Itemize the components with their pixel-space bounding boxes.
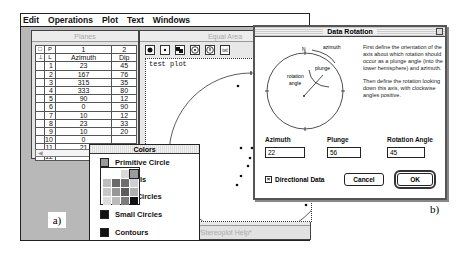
dip-cell[interactable] [112, 136, 137, 144]
azimuth-label: Azimuth [265, 136, 291, 143]
row-spacer [36, 119, 45, 127]
row-spacer [36, 95, 45, 103]
color-cell[interactable] [130, 197, 138, 205]
dip-cell[interactable]: 20 [112, 127, 137, 135]
azimuth-cell[interactable]: 23 [55, 62, 111, 70]
dip-cell[interactable]: 76 [112, 70, 137, 78]
color-row-contours[interactable]: Contours [100, 228, 148, 237]
table-row[interactable]: 91020 [36, 127, 137, 135]
small-dot-icon[interactable] [160, 45, 170, 55]
table-row[interactable]: 71012 [36, 111, 137, 119]
color-cell[interactable] [130, 188, 138, 196]
filled-dot-icon[interactable] [145, 45, 155, 55]
menu-edit[interactable]: Edit [23, 14, 39, 26]
row-index[interactable]: 3 [45, 78, 56, 86]
sort-icon[interactable]: ⊥ [36, 54, 45, 62]
squares-icon[interactable] [175, 45, 185, 55]
dialog-title-bar[interactable]: Data Rotation [255, 27, 445, 37]
row-spacer [36, 111, 45, 119]
azimuth-input[interactable]: 22 [265, 147, 305, 158]
checkbox-icon[interactable]: × [265, 176, 272, 183]
color-cell[interactable] [112, 188, 120, 196]
color-cell[interactable] [103, 170, 111, 178]
dip-cell[interactable]: 35 [112, 78, 137, 86]
row-spacer [36, 78, 45, 86]
row-index[interactable]: 1 [45, 62, 56, 70]
azimuth-cell[interactable]: 167 [55, 70, 111, 78]
color-cell[interactable] [121, 188, 129, 196]
column-number-2[interactable]: 2 [112, 46, 137, 54]
row-index[interactable]: 9 [45, 127, 56, 135]
menu-text[interactable]: Text [127, 14, 144, 26]
column-header-azimuth[interactable]: Azimuth [55, 54, 111, 62]
color-cell[interactable] [121, 197, 129, 205]
target-info-icon[interactable] [205, 45, 215, 55]
menu-operations[interactable]: Operations [48, 14, 93, 26]
color-cell[interactable] [112, 197, 120, 205]
dip-cell[interactable]: 45 [112, 62, 137, 70]
row-index[interactable]: 5 [45, 95, 56, 103]
table-row[interactable]: 59012 [36, 95, 137, 103]
colors-title[interactable]: Colors [90, 145, 199, 154]
color-cell[interactable] [121, 170, 129, 178]
color-row-small-circles[interactable]: Small Circles [100, 210, 162, 219]
menu-plot[interactable]: Plot [102, 14, 118, 26]
directional-data-checkbox[interactable]: × Directional Data [265, 176, 325, 183]
azimuth-cell[interactable]: 90 [55, 95, 111, 103]
table-row[interactable]: 433380 [36, 86, 137, 94]
color-cell[interactable] [130, 179, 138, 187]
table-row[interactable]: 100 [36, 136, 137, 144]
planes-title[interactable]: Planes [32, 31, 138, 42]
cancel-button[interactable]: Cancel [344, 173, 384, 186]
color-picker-popup[interactable] [100, 167, 140, 205]
row-index[interactable]: 6 [45, 103, 56, 111]
color-cell[interactable] [112, 170, 120, 178]
color-cell[interactable] [112, 179, 120, 187]
row-index[interactable]: 2 [45, 70, 56, 78]
azimuth-cell[interactable]: 315 [55, 78, 111, 86]
row-index[interactable]: 7 [45, 111, 56, 119]
column-number-1[interactable]: 1 [55, 46, 111, 54]
row-index[interactable]: 10 [45, 136, 56, 144]
table-row[interactable]: 331535 [36, 78, 137, 86]
row-spacer [36, 103, 45, 111]
color-cell[interactable] [103, 179, 111, 187]
azimuth-cell[interactable]: 10 [55, 111, 111, 119]
dip-cell[interactable]: 90 [112, 103, 137, 111]
zoom-box-icon[interactable] [436, 28, 443, 35]
color-cell[interactable] [121, 179, 129, 187]
text-tool-icon[interactable]: txt [220, 45, 230, 55]
table-row[interactable]: 216776 [36, 70, 137, 78]
color-swatch[interactable] [100, 228, 109, 237]
dip-cell[interactable]: 12 [112, 95, 137, 103]
azimuth-cell[interactable]: 10 [55, 127, 111, 135]
azimuth-cell[interactable]: 0 [55, 103, 111, 111]
rotation-angle-input[interactable]: 45 [387, 147, 425, 158]
dip-cell[interactable]: 80 [112, 86, 137, 94]
colors-palette: Colors Primitive Circle Symbols Great Ci… [89, 144, 200, 241]
ok-button[interactable]: OK [397, 173, 433, 186]
dip-cell[interactable]: 33 [112, 119, 137, 127]
azimuth-cell[interactable]: 0 [55, 136, 111, 144]
color-cell[interactable] [103, 188, 111, 196]
azimuth-cell[interactable]: 333 [55, 86, 111, 94]
color-cell[interactable] [103, 197, 111, 205]
column-header-dip[interactable]: Dip [112, 54, 137, 62]
doc-icon[interactable]: □ [36, 46, 45, 54]
color-swatch[interactable] [100, 158, 109, 167]
azimuth-cell[interactable]: 23 [55, 119, 111, 127]
color-row-primitive-circle[interactable]: Primitive Circle [100, 158, 170, 167]
table-row[interactable]: 82333 [36, 119, 137, 127]
row-index[interactable]: 8 [45, 119, 56, 127]
row-index[interactable]: 4 [45, 86, 56, 94]
svg-text:angle: angle [289, 80, 301, 86]
color-label: Contours [115, 228, 148, 237]
plunge-input[interactable]: 56 [327, 147, 361, 158]
table-row[interactable]: 12345 [36, 62, 137, 70]
menu-windows[interactable]: Windows [153, 14, 190, 26]
color-cell[interactable] [130, 170, 138, 178]
color-swatch[interactable] [100, 210, 109, 219]
target-icon[interactable] [190, 45, 200, 55]
dip-cell[interactable]: 12 [112, 111, 137, 119]
table-row[interactable]: 6090 [36, 103, 137, 111]
